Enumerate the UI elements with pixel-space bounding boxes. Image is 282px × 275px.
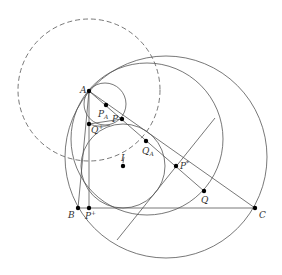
- label-b: B: [67, 210, 75, 220]
- label-a: A: [79, 85, 87, 95]
- segment-ab: [78, 91, 89, 208]
- perpendicular-line: [117, 118, 215, 240]
- label-qplus: Q+: [91, 123, 103, 135]
- point-pstar: [174, 164, 178, 168]
- label-i: I: [120, 153, 125, 163]
- label-p: P: [111, 114, 119, 124]
- label-q: Q: [201, 195, 209, 205]
- geometry-diagram: A B C P+ PA P Q+ QA I P* Q: [0, 0, 282, 275]
- point-b: [76, 206, 80, 210]
- label-pstar: P*: [179, 159, 189, 171]
- point-i: [121, 164, 125, 168]
- label-pa: PA: [97, 109, 109, 120]
- point-a: [87, 89, 91, 93]
- point-pa: [104, 103, 108, 107]
- point-qa: [144, 139, 148, 143]
- point-c: [253, 206, 257, 210]
- point-q: [202, 189, 206, 193]
- point-p: [120, 117, 124, 121]
- segment-ac: [89, 91, 255, 208]
- label-qa: QA: [142, 146, 154, 157]
- label-pplus: P+: [84, 209, 96, 221]
- outer-circle: [65, 56, 267, 258]
- label-c: C: [259, 210, 266, 220]
